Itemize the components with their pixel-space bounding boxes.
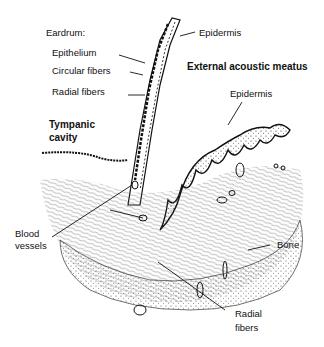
tympanic-lining	[42, 152, 128, 160]
label-tympanic: Tympanic	[49, 119, 95, 130]
label-vessels: vessels	[15, 240, 47, 251]
label-fibers: fibers	[235, 322, 258, 333]
label-bone: Bone	[277, 239, 299, 250]
eardrum-membrane	[128, 18, 180, 205]
label-radial: Radial	[235, 308, 262, 319]
label-cavity: cavity	[49, 132, 77, 143]
label-external-acoustic-meatus: External acoustic meatus	[187, 61, 308, 72]
eardrum-diagram: Eardrum: Epithelium Circular fibers Radi…	[0, 0, 324, 347]
label-circular-fibers: Circular fibers	[52, 65, 111, 76]
label-radial-fibers-top: Radial fibers	[52, 86, 105, 97]
label-epidermis-right: Epidermis	[230, 88, 272, 99]
label-blood: Blood	[15, 228, 39, 239]
label-eardrum: Eardrum:	[46, 27, 85, 38]
label-epithelium: Epithelium	[52, 47, 96, 58]
eardrum-illustration	[0, 0, 324, 347]
label-epidermis-top: Epidermis	[199, 27, 241, 38]
